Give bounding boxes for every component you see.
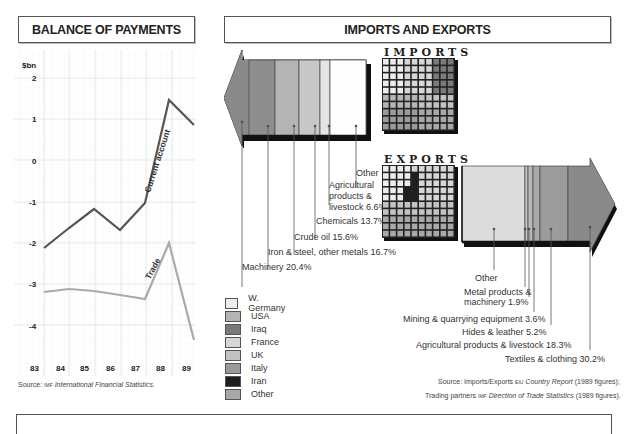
import-label-agri: Agricultural products & livestock 6.6%: [329, 180, 387, 213]
legend-swatch: [225, 337, 241, 348]
legend-label: UK: [251, 350, 264, 360]
legend-label: Iraq: [251, 324, 267, 334]
x-tick-87: 87: [131, 364, 140, 373]
legend-swatch: [225, 350, 241, 361]
trade-title: IMPORTS AND EXPORTS: [224, 16, 611, 43]
source1-title: Country Report: [525, 378, 572, 385]
source1-prefix: Source: Imports/Exports: [438, 378, 513, 385]
trade-source-1: Source: Imports/Exports EIU Country Repo…: [438, 378, 620, 385]
legend-label: Iran: [251, 376, 267, 386]
legend-w-germany: W. Germany: [225, 297, 288, 309]
legend-swatch: [225, 311, 241, 322]
trade-label: Trade: [143, 256, 163, 281]
legend-label: Other: [251, 389, 274, 399]
import-agri-line1: Agricultural: [329, 180, 387, 191]
export-label-other: Other: [475, 273, 498, 283]
legend-swatch: [225, 324, 241, 335]
import-label-crude: Crude oil 15.6%: [294, 232, 358, 242]
export-label-hides: Hides & leather 5.2%: [462, 327, 547, 337]
trade-source-2: Trading partners IMF Direction of Trade …: [425, 392, 621, 399]
source2-agency: IMF: [478, 393, 487, 399]
balance-source: Source: IMF International Financial Stat…: [18, 381, 155, 388]
import-label-machinery: Machinery 20.4%: [242, 262, 312, 272]
x-tick-89: 89: [182, 364, 191, 373]
x-tick-86: 86: [106, 364, 115, 373]
legend-swatch: [225, 363, 241, 374]
legend-france: France: [225, 336, 279, 348]
legend-iran: Iran: [225, 375, 267, 387]
source-title: International Financial Statistics.: [55, 381, 155, 388]
source-prefix: Source:: [18, 381, 42, 388]
export-metal-line1: Metal products &: [464, 287, 526, 297]
current-account-label: Current account: [142, 128, 172, 194]
import-label-other: Other: [356, 168, 379, 178]
source2-suffix: (1989 figures).: [576, 392, 621, 399]
legend-iraq: Iraq: [225, 323, 267, 335]
legend-label: France: [251, 337, 279, 347]
export-label-agri: Agricultural products & livestock 18.3%: [416, 340, 572, 350]
legend-italy: Italy: [225, 362, 268, 374]
source2-prefix: Trading partners: [425, 392, 476, 399]
import-agri-line3: livestock 6.6%: [329, 202, 387, 213]
source-agency: IMF: [44, 382, 53, 388]
export-label-metal: Metal products & machinery 1.9%: [464, 287, 526, 307]
export-label-textiles: Textiles & clothing 30.2%: [505, 354, 605, 364]
imports-grid: [382, 58, 458, 134]
legend-usa: USA: [225, 310, 270, 322]
x-tick-88: 88: [156, 364, 165, 373]
source2-title: Direction of Trade Statistics: [489, 392, 574, 399]
trade-line: [44, 243, 194, 340]
next-section-box: [16, 414, 612, 434]
x-tick-83: 83: [30, 364, 39, 373]
balance-lines: Current account Trade: [0, 0, 210, 400]
source1-agency: EIU: [515, 379, 523, 385]
export-metal-line2: machinery 1.9%: [464, 297, 526, 307]
legend-other: Other: [225, 388, 274, 400]
source1-suffix: (1989 figures);: [575, 378, 620, 385]
legend-swatch: [225, 298, 238, 309]
legend-label: USA: [251, 311, 270, 321]
legend-label: Italy: [251, 363, 268, 373]
trade-title-text: IMPORTS AND EXPORTS: [344, 23, 490, 37]
import-label-chemicals: Chemicals 13.7%: [316, 216, 386, 226]
exports-grid: [382, 165, 458, 241]
import-label-iron: Iron & steel, other metals 16.7%: [268, 247, 396, 257]
legend-swatch: [225, 376, 241, 387]
x-tick-85: 85: [80, 364, 89, 373]
legend-uk: UK: [225, 349, 264, 361]
current-account-line: [44, 100, 194, 248]
x-tick-84: 84: [56, 364, 65, 373]
export-label-mining: Mining & quarrying equipment 3.6%: [403, 314, 546, 324]
legend-swatch: [225, 389, 241, 400]
import-agri-line2: products &: [329, 191, 387, 202]
